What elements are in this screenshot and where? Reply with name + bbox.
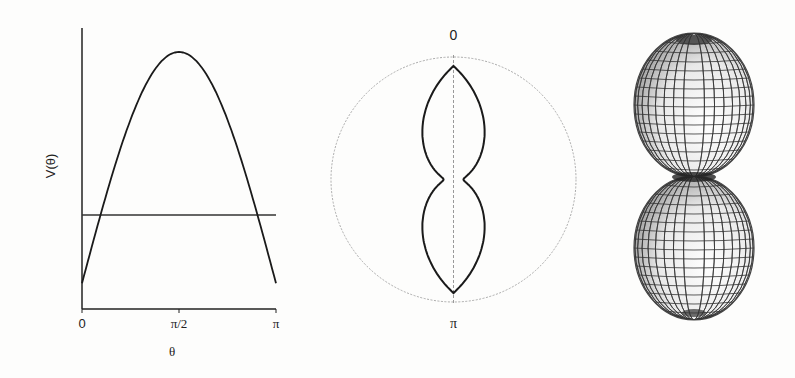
lower-pole-shading [682,309,706,317]
x-tick-label-0: 0 [78,316,85,331]
upper-pole-shading [676,35,712,45]
x-axis-label: θ [169,344,175,359]
potential-curve [82,52,276,283]
potential-plot: 0 π/2 π θ V(θ) [43,28,280,359]
surface-3d [634,33,754,320]
upper-lobe [634,33,754,177]
figure: 0 π/2 π θ V(θ) 0 π [0,0,795,378]
polar-plot: 0 π [331,27,576,331]
x-tick-label-pi-half: π/2 [171,316,188,331]
angle-label-top: 0 [450,27,458,43]
x-tick-label-pi: π [273,316,280,331]
angle-label-bottom: π [450,316,457,331]
y-axis-label: V(θ) [43,154,58,179]
waist-shading [672,172,716,182]
lower-lobe [634,176,754,320]
